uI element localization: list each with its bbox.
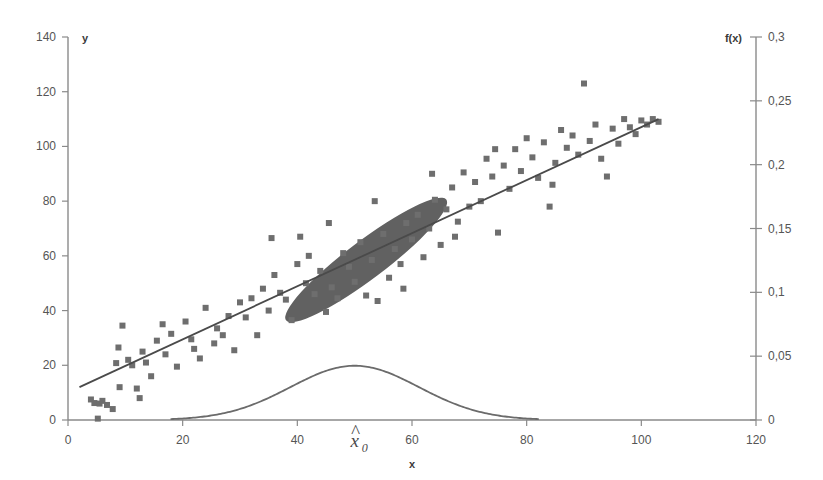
secondary-y-tick-label: 0,1 (768, 285, 785, 299)
scatter-point (104, 402, 110, 408)
scatter-point (148, 373, 154, 379)
scatter-point (323, 309, 329, 315)
scatter-point (549, 182, 555, 188)
scatter-point (492, 146, 498, 152)
y-tick-label: 100 (36, 139, 56, 153)
scatter-point (592, 122, 598, 128)
scatter-point (380, 231, 386, 237)
scatter-point (627, 124, 633, 130)
scatter-point (452, 234, 458, 240)
scatter-point (143, 360, 149, 366)
scatter-point (352, 279, 358, 285)
x-tick-label: 40 (291, 433, 305, 447)
scatter-point (154, 338, 160, 344)
scatter-point (610, 126, 616, 132)
scatter-point (174, 364, 180, 370)
scatter-point (547, 204, 553, 210)
secondary-y-axis-title: f(x) (725, 32, 742, 44)
x-hat-subscript: 0 (362, 441, 368, 455)
x-tick-label: 20 (176, 433, 190, 447)
scatter-point (403, 220, 409, 226)
scatter-point (317, 268, 323, 274)
scatter-point (260, 286, 266, 292)
scatter-point (363, 293, 369, 299)
scatter-point (297, 234, 303, 240)
scatter-point (211, 340, 217, 346)
scatter-point (214, 325, 220, 331)
scatter-point (160, 321, 166, 327)
scatter-point (432, 197, 438, 203)
scatter-point (162, 351, 168, 357)
scatter-point (415, 212, 421, 218)
x-tick-label: 60 (405, 433, 419, 447)
scatter-point (248, 295, 254, 301)
scatter-point (472, 179, 478, 185)
scatter-point (429, 171, 435, 177)
x-hat-variable: x (349, 430, 359, 451)
scatter-point (113, 360, 119, 366)
scatter-point (91, 400, 97, 406)
scatter-point (117, 384, 123, 390)
scatter-point (461, 169, 467, 175)
scatter-point (191, 346, 197, 352)
scatter-point (306, 253, 312, 259)
scatter-point (615, 141, 621, 147)
scatter-point (495, 230, 501, 236)
y-tick-label: 80 (43, 194, 57, 208)
scatter-point (346, 264, 352, 270)
scatter-point (334, 295, 340, 301)
scatter-point (237, 299, 243, 305)
scatter-point (269, 235, 275, 241)
scatter-point (372, 198, 378, 204)
scatter-point (455, 219, 461, 225)
scatter-point (254, 332, 260, 338)
scatter-point (524, 135, 530, 141)
scatter-point (501, 163, 507, 169)
scatter-point (231, 347, 237, 353)
scatter-point (392, 246, 398, 252)
scatter-point (283, 297, 289, 303)
x-tick-label: 80 (520, 433, 534, 447)
scatter-point (484, 156, 490, 162)
scatter-point (541, 139, 547, 145)
scatter-point (633, 131, 639, 137)
scatter-point (570, 132, 576, 138)
scatter-point (400, 286, 406, 292)
scatter-point (409, 236, 415, 242)
scatter-point (621, 116, 627, 122)
scatter-point (326, 220, 332, 226)
scatter-point (95, 416, 101, 422)
scatter-point (137, 395, 143, 401)
scatter-point (420, 254, 426, 260)
scatter-point (243, 314, 249, 320)
scatter-point (449, 184, 455, 190)
scatter-point (271, 272, 277, 278)
x-tick-label: 0 (65, 433, 72, 447)
secondary-y-tick-label: 0,15 (768, 222, 792, 236)
scatter-regression-figure: 020406080100120140 020406080100120 00,05… (0, 0, 823, 480)
scatter-point (357, 239, 363, 245)
scatter-point (438, 242, 444, 248)
scatter-point (386, 275, 392, 281)
x-axis-title: x (409, 458, 416, 470)
scatter-point (140, 349, 146, 355)
secondary-y-tick-label: 0,25 (768, 94, 792, 108)
scatter-point (125, 357, 131, 363)
scatter-point (197, 355, 203, 361)
y-tick-label: 60 (43, 249, 57, 263)
scatter-point (638, 117, 644, 123)
scatter-point (604, 174, 610, 180)
y-axis-title: y (82, 32, 89, 44)
scatter-point (203, 305, 209, 311)
scatter-point (266, 308, 272, 314)
y-tick-label: 120 (36, 85, 56, 99)
secondary-y-tick-label: 0,3 (768, 30, 785, 44)
y-tick-label: 140 (36, 30, 56, 44)
scatter-point (220, 332, 226, 338)
scatter-point (134, 386, 140, 392)
secondary-y-tick-label: 0 (768, 413, 775, 427)
x-tick-label: 120 (746, 433, 766, 447)
scatter-point (294, 261, 300, 267)
scatter-point (512, 146, 518, 152)
scatter-point (340, 250, 346, 256)
